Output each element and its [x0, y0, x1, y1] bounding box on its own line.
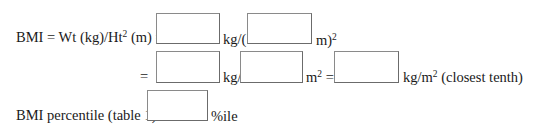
- kg-slash-unit: kg/: [223, 70, 242, 85]
- m-squared-equals: m2 =: [306, 70, 334, 85]
- bmi-percentile-label: BMI percentile (table 1): [16, 108, 157, 123]
- height-m-field[interactable]: [247, 13, 312, 44]
- bmi-formula-label: BMI = Wt (kg)/Ht2 (m) =: [16, 30, 164, 45]
- kg-over-unit: kg/(: [223, 32, 246, 47]
- closest-tenth-note: (closest tenth): [438, 69, 523, 85]
- bmi-percentile-field[interactable]: [147, 90, 208, 121]
- kg-m-unit: kg/m: [403, 69, 433, 85]
- percentile-unit: %ile: [211, 109, 238, 124]
- m-close-paren: m): [316, 32, 332, 48]
- weight-kg-field-2[interactable]: [156, 51, 220, 83]
- formula-prefix: BMI = Wt (kg)/Ht: [16, 29, 123, 45]
- m-unit: m: [306, 69, 317, 85]
- equals-sign-2: =: [322, 69, 334, 85]
- bmi-unit-note: kg/m2 (closest tenth): [403, 70, 523, 85]
- bmi-result-field[interactable]: [334, 51, 399, 83]
- height-m-squared-field[interactable]: [240, 51, 303, 83]
- m-squared-unit: m)2: [316, 33, 337, 48]
- weight-kg-field[interactable]: [156, 13, 220, 44]
- equals-sign: =: [140, 69, 148, 84]
- squared-superscript: 2: [332, 32, 337, 42]
